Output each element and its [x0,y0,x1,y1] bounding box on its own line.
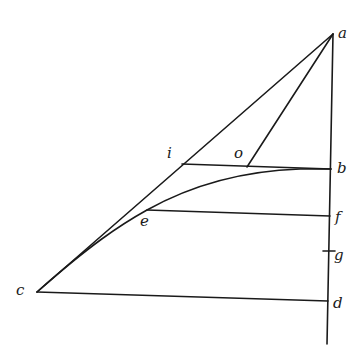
label-d: d [333,294,343,312]
curve-ceb [37,169,331,292]
label-a: a [338,24,347,42]
label-b: b [337,159,347,177]
label-g: g [334,246,344,264]
segment-ao [247,34,333,167]
label-i: i [167,144,172,162]
geometry-diagram: a b c d e f g i o [0,0,363,352]
segment-cd [37,292,328,301]
diagram-canvas: a b c d e f g i o [0,0,363,352]
segment-ac [37,34,333,292]
label-f: f [334,208,343,226]
label-o: o [234,144,243,162]
label-e: e [140,212,149,230]
segment-ef [147,210,330,216]
label-c: c [16,281,25,299]
